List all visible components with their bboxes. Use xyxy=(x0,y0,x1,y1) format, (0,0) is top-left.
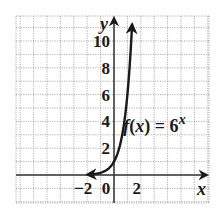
y-tick-label: 8 xyxy=(102,59,111,78)
y-axis-label: y xyxy=(98,14,109,34)
y-tick-label: 6 xyxy=(102,86,111,105)
y-tick-label: 2 xyxy=(102,139,111,158)
x-axis-label: x xyxy=(196,179,206,199)
function-label-exponent: x xyxy=(178,112,186,127)
y-tick-label: 10 xyxy=(93,32,110,51)
x-tick-label: 2 xyxy=(133,179,142,198)
function-label: f(x) = 6x xyxy=(123,112,185,137)
x-tick-label: −2 xyxy=(74,179,92,198)
function-graph: −202246810 x y f(x) = 6x xyxy=(0,0,224,210)
y-tick-label: 4 xyxy=(102,112,111,131)
axes xyxy=(16,18,207,203)
x-tick-label: 0 xyxy=(102,179,111,198)
function-label-part: x xyxy=(134,116,144,136)
function-label-part: ) = 6 xyxy=(144,116,178,137)
